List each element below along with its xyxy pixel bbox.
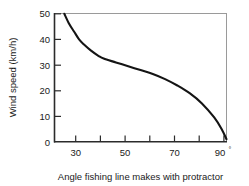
y-tick-label-20: 20 bbox=[39, 85, 50, 96]
y-tick-label-50: 50 bbox=[39, 8, 50, 19]
x-tick-label-30: 30 bbox=[70, 147, 81, 158]
degree-symbol: ° bbox=[229, 146, 232, 153]
y-tick-label-10: 10 bbox=[39, 111, 50, 122]
y-tick-label-30: 30 bbox=[39, 60, 50, 71]
x-tick-label-70: 70 bbox=[169, 147, 180, 158]
y-tick-label-0: 0 bbox=[45, 137, 50, 148]
x-tick-label-50: 50 bbox=[120, 147, 131, 158]
chart-background bbox=[0, 0, 249, 186]
x-axis-title: Angle fishing line makes with protractor bbox=[58, 171, 223, 182]
y-axis-title: Wind speed (km/h) bbox=[7, 38, 18, 118]
x-tick-label-90: 90 bbox=[215, 147, 226, 158]
y-tick-label-40: 40 bbox=[39, 34, 50, 45]
chart-figure: 50 40 30 20 10 0 30 50 70 90 ° Angle fis… bbox=[0, 0, 249, 186]
